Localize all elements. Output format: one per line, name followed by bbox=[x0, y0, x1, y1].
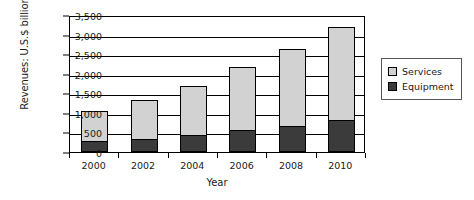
x-tick-mark bbox=[118, 153, 119, 158]
bar-group[interactable] bbox=[229, 15, 256, 152]
legend-label-services: Services bbox=[402, 66, 442, 77]
legend-swatch-equipment bbox=[388, 82, 397, 91]
x-tick-label: 2000 bbox=[72, 160, 116, 171]
legend-label-equipment: Equipment bbox=[402, 81, 454, 92]
y-tick-mark bbox=[63, 16, 69, 17]
x-axis-title: Year bbox=[69, 177, 365, 188]
plot-area bbox=[69, 16, 365, 153]
x-tick-mark bbox=[168, 153, 169, 158]
x-tick-label: 2002 bbox=[121, 160, 165, 171]
bar-group[interactable] bbox=[328, 15, 355, 152]
y-tick-mark bbox=[63, 133, 69, 134]
y-tick-mark bbox=[63, 74, 69, 75]
x-tick-mark bbox=[266, 153, 267, 158]
legend-swatch-services bbox=[388, 67, 397, 76]
x-tick-mark bbox=[217, 153, 218, 158]
y-tick-mark bbox=[63, 35, 69, 36]
bar-group[interactable] bbox=[279, 15, 306, 152]
x-tick-mark bbox=[316, 153, 317, 158]
bar-segment-services[interactable] bbox=[180, 86, 207, 136]
bar-group[interactable] bbox=[131, 15, 158, 152]
x-tick-mark bbox=[69, 153, 70, 158]
bar-segment-equipment[interactable] bbox=[131, 139, 158, 152]
x-tick-label: 2010 bbox=[318, 160, 362, 171]
y-tick-mark bbox=[63, 55, 69, 56]
y-axis-title: Revenues: U.S.$ billion bbox=[19, 0, 30, 126]
x-tick-mark bbox=[365, 153, 366, 158]
bar-segment-equipment[interactable] bbox=[279, 125, 306, 152]
bar-segment-services[interactable] bbox=[328, 27, 355, 121]
bar-segment-services[interactable] bbox=[229, 67, 256, 130]
bar-segment-services[interactable] bbox=[279, 49, 306, 127]
bars-layer bbox=[70, 17, 364, 152]
legend-item-services[interactable]: Services bbox=[388, 64, 454, 79]
bar-group[interactable] bbox=[180, 15, 207, 152]
y-tick-mark bbox=[63, 113, 69, 114]
y-tick-mark bbox=[63, 94, 69, 95]
x-tick-label: 2006 bbox=[220, 160, 264, 171]
chart-legend: Services Equipment bbox=[381, 58, 462, 100]
bar-segment-equipment[interactable] bbox=[180, 134, 207, 152]
legend-item-equipment[interactable]: Equipment bbox=[388, 79, 454, 94]
bar-segment-services[interactable] bbox=[131, 100, 158, 140]
x-tick-label: 2008 bbox=[269, 160, 313, 171]
bar-segment-equipment[interactable] bbox=[328, 120, 355, 152]
bar-segment-equipment[interactable] bbox=[229, 130, 256, 152]
x-tick-label: 2004 bbox=[170, 160, 214, 171]
stacked-bar-chart: Revenues: U.S.$ billion 05001,0001,5002,… bbox=[0, 0, 474, 200]
